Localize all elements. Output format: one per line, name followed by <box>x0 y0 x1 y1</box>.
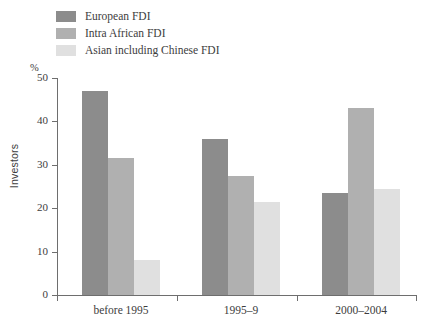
bar <box>202 139 228 295</box>
y-axis-title: Investors <box>8 121 20 211</box>
y-axis-tick-label: 10 <box>37 245 48 257</box>
bar <box>108 158 134 295</box>
y-axis-tick: 30 <box>52 165 57 166</box>
bar <box>348 108 374 295</box>
bar <box>228 176 254 295</box>
y-axis-tick: 50 <box>52 78 57 79</box>
x-axis-tick-label: 1995–9 <box>224 304 259 316</box>
y-axis-tick-label: 20 <box>37 201 48 213</box>
x-axis-tick <box>297 295 298 301</box>
x-axis-tick-label: 2000–2004 <box>335 304 387 316</box>
y-axis-line <box>57 78 58 295</box>
legend-item-label: Asian including Chinese FDI <box>85 44 219 56</box>
x-axis-tick <box>177 295 178 301</box>
legend-item-label: Intra African FDI <box>85 27 165 39</box>
x-axis-tick <box>416 295 417 301</box>
chart-legend: European FDI Intra African FDI Asian inc… <box>56 8 356 59</box>
y-axis-tick-label: 40 <box>37 114 48 126</box>
bar <box>374 189 400 295</box>
legend-item-label: European FDI <box>85 10 150 22</box>
y-axis-tick: 40 <box>52 121 57 122</box>
plot-area: 01020304050 before 19951995–92000–2004 <box>57 78 417 295</box>
legend-item-intra-african-fdi: Intra African FDI <box>56 25 356 41</box>
bar <box>322 193 348 295</box>
legend-swatch-icon <box>56 11 76 22</box>
bar <box>134 260 160 295</box>
y-axis-tick-label: 50 <box>37 71 48 83</box>
legend-swatch-icon <box>56 45 76 56</box>
bar <box>82 91 108 295</box>
x-axis-tick <box>57 295 58 301</box>
x-axis-tick-label: before 1995 <box>93 304 148 316</box>
y-axis-tick: 20 <box>52 208 57 209</box>
y-axis-tick: 10 <box>52 252 57 253</box>
y-axis-tick-label: 0 <box>43 288 49 300</box>
legend-swatch-icon <box>56 28 76 39</box>
x-axis-line <box>57 295 417 296</box>
y-axis-tick-label: 30 <box>37 158 48 170</box>
bar <box>254 202 280 295</box>
legend-item-european-fdi: European FDI <box>56 8 356 24</box>
bar-chart-figure: European FDI Intra African FDI Asian inc… <box>0 0 422 332</box>
legend-item-asian-including-chinese-fdi: Asian including Chinese FDI <box>56 42 356 58</box>
